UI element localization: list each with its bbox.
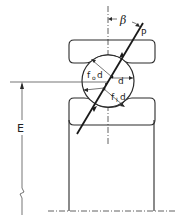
fo-label-tail: d <box>97 70 103 80</box>
e-label: E <box>17 122 24 135</box>
fi-label-tail: d <box>120 92 126 102</box>
d-label: d <box>118 76 124 86</box>
fi-label-sub: I <box>116 96 118 103</box>
beta-label: β <box>119 14 126 27</box>
e-arrow-icon <box>20 82 24 89</box>
break-symbol <box>20 188 24 215</box>
bearing-diagram: E P β d f o d f I d <box>0 0 183 223</box>
p-label: P <box>141 28 147 38</box>
beta-arrow-left-icon <box>108 17 112 21</box>
fo-label-sub: o <box>92 74 96 81</box>
ball-center <box>105 83 107 85</box>
